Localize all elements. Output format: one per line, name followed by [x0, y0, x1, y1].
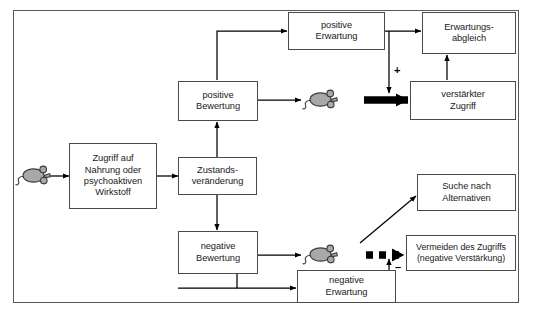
node-negative-appraisal[interactable]: negative Bewertung [178, 231, 258, 274]
node-positive-expectation-label: positive Erwartung [316, 20, 358, 43]
mouse-top-icon [301, 84, 339, 116]
node-increased-access[interactable]: verstärkter Zugriff [410, 81, 516, 120]
node-expectation-match-label: Erwartungs- abgleich [444, 22, 494, 45]
node-access[interactable]: Zugriff auf Nahrung oder psychoaktiven W… [69, 143, 157, 209]
node-search-alternatives[interactable]: Suche nach Alternativen [417, 174, 516, 211]
node-state-change-label: Zustands- veränderung [192, 165, 244, 188]
node-expectation-match[interactable]: Erwartungs- abgleich [422, 12, 516, 54]
plus-sign-label: + [394, 65, 400, 76]
node-access-label: Zugriff auf Nahrung oder psychoaktiven W… [84, 153, 142, 199]
minus-sign-label: – [395, 262, 401, 273]
node-negative-expectation-label: negative Erwartung [326, 275, 368, 298]
node-positive-appraisal-label: positive Bewertung [196, 90, 240, 113]
node-search-alternatives-label: Suche nach Alternativen [442, 181, 491, 204]
mouse-bottom-icon [301, 239, 339, 271]
node-avoid-access-label: Vermeiden des Zugriffs (negative Verstär… [416, 242, 506, 264]
node-negative-appraisal-label: negative Bewertung [196, 241, 240, 264]
node-positive-expectation[interactable]: positive Erwartung [288, 12, 385, 50]
node-negative-expectation[interactable]: negative Erwartung [297, 270, 396, 303]
node-state-change[interactable]: Zustands- veränderung [178, 157, 257, 195]
node-positive-appraisal[interactable]: positive Bewertung [178, 81, 258, 121]
node-avoid-access[interactable]: Vermeiden des Zugriffs (negative Verstär… [406, 235, 516, 271]
diagram-figure: Zugriff auf Nahrung oder psychoaktiven W… [0, 0, 533, 328]
mouse-left-icon [14, 160, 52, 192]
node-increased-access-label: verstärkter Zugriff [441, 89, 484, 112]
